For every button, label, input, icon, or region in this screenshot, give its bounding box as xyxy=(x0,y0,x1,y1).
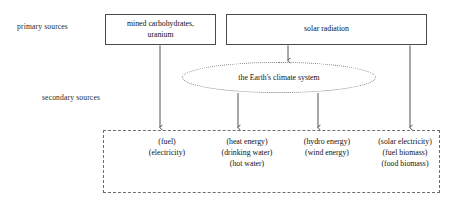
primary-source-box-solar: solar radiation xyxy=(226,14,427,45)
primary-source-mined-line1: mined carbohydrates, xyxy=(127,19,194,28)
energy-sources-diagram: primary sources secondary sources mined … xyxy=(0,0,458,206)
climate-system-label: the Earth's climate system xyxy=(238,73,319,82)
label-primary-sources: primary sources xyxy=(17,22,68,31)
primary-source-solar-line1: solar radiation xyxy=(304,24,349,33)
primary-source-solar-text: solar radiation xyxy=(301,24,352,35)
primary-source-mined-line2: uranium xyxy=(148,30,174,39)
output-line: (fuel biomass) xyxy=(358,147,452,158)
output-group-solar-biomass: (solar electricity) (fuel biomass) (food… xyxy=(358,136,452,169)
output-line: (food biomass) xyxy=(358,158,452,169)
output-line: (hot water) xyxy=(200,158,294,169)
secondary-outputs-box: (fuel) (electricity) (heat energy) (drin… xyxy=(103,130,440,193)
primary-source-mined-text: mined carbohydrates, uranium xyxy=(124,19,197,41)
climate-system-ellipse: the Earth's climate system xyxy=(182,62,376,93)
primary-source-box-mined: mined carbohydrates, uranium xyxy=(105,14,216,45)
output-line: (solar electricity) xyxy=(358,136,452,147)
label-secondary-sources: secondary sources xyxy=(42,93,100,102)
